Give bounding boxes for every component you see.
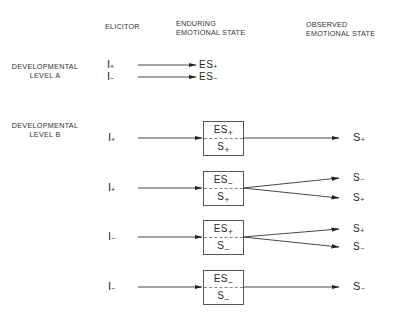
- observed-state-1: S+: [353, 131, 365, 143]
- box-enduring-state: ES+: [204, 122, 243, 138]
- box-enduring-state: ES+: [204, 221, 243, 237]
- level-b-elicitor-3: I−: [108, 230, 115, 242]
- state-box-1: ES+ S+: [203, 121, 244, 156]
- level-a-state-2: ES−: [199, 71, 218, 82]
- level-b-elicitor-2: I+: [108, 181, 115, 193]
- level-b-elicitor-1: I+: [108, 131, 115, 143]
- observed-state-2a: S−: [353, 172, 365, 183]
- state-box-3: ES+ S−: [203, 220, 244, 255]
- observed-state-2b: S+: [353, 192, 365, 203]
- box-enduring-state: ES−: [204, 271, 243, 287]
- box-enduring-state: ES−: [204, 172, 243, 188]
- connector-arrows: [0, 0, 397, 319]
- box-situational-state: S−: [204, 288, 243, 304]
- state-box-4: ES− S−: [203, 270, 244, 305]
- box-situational-state: S+: [204, 189, 243, 205]
- level-b-elicitor-4: I−: [108, 280, 115, 292]
- level-a-state-1: ES+: [199, 59, 218, 70]
- level-a-elicitor-2: I−: [107, 70, 114, 82]
- observed-state-4: S−: [353, 280, 365, 292]
- box-situational-state: S+: [204, 139, 243, 155]
- state-box-2: ES− S+: [203, 171, 244, 206]
- box-situational-state: S−: [204, 238, 243, 254]
- observed-state-3a: S+: [353, 223, 365, 234]
- observed-state-3b: S−: [353, 241, 365, 252]
- level-a-elicitor-1: I+: [107, 58, 114, 70]
